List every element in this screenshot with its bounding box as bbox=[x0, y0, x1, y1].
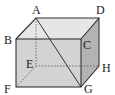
vertex-label-H: H bbox=[102, 61, 111, 75]
vertex-label-A: A bbox=[32, 3, 41, 17]
vertex-label-D: D bbox=[96, 3, 105, 17]
vertex-label-F: F bbox=[4, 82, 11, 95]
vertex-label-C: C bbox=[83, 38, 91, 52]
vertex-label-G: G bbox=[84, 82, 93, 95]
vertex-label-B: B bbox=[4, 33, 12, 47]
cuboid-diagram: A D B C E H F G bbox=[0, 0, 115, 95]
vertex-label-E: E bbox=[26, 57, 33, 71]
